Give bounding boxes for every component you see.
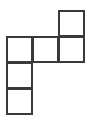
net-square-r3-c0 bbox=[6, 88, 33, 115]
net-square-r0-c2 bbox=[58, 10, 85, 37]
net-square-r1-c2 bbox=[58, 36, 85, 63]
net-square-r2-c0 bbox=[6, 62, 33, 89]
net-square-r1-c1 bbox=[32, 36, 59, 63]
cube-net-diagram bbox=[0, 0, 93, 115]
net-square-r1-c0 bbox=[6, 36, 33, 63]
